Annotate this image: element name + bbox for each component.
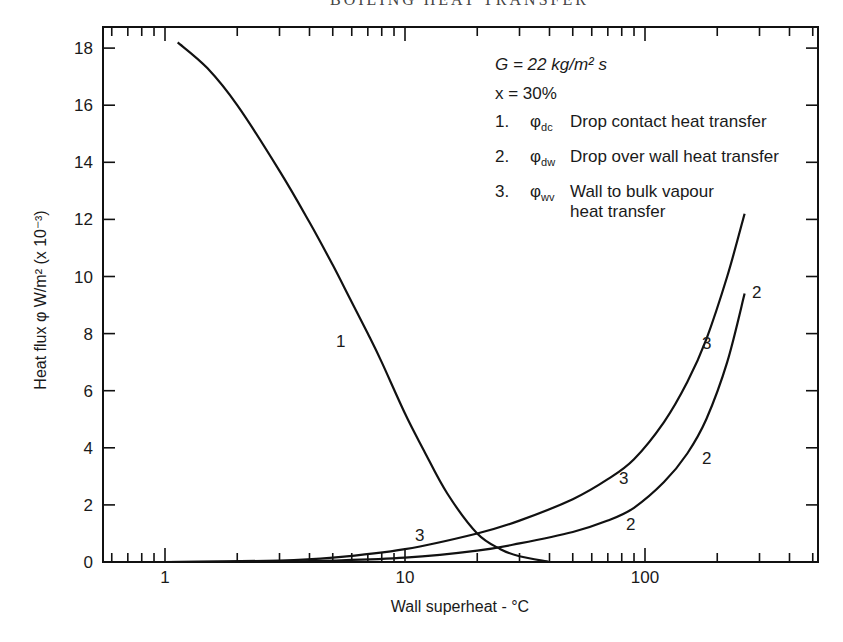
y-axis-title: Heat flux φ W/m² (x 10⁻³)	[32, 210, 49, 389]
legend-item-3: 3. φwv Wall to bulk vapour heat transfer	[495, 182, 714, 221]
phi-icon: φwv	[530, 182, 555, 203]
legend-item-2-label: Drop over wall heat transfer	[570, 147, 779, 166]
curve-2	[165, 294, 745, 562]
legend-quality: x = 30%	[495, 84, 557, 103]
y-tick-label: 0	[84, 553, 93, 572]
y-tick-label: 2	[84, 496, 93, 515]
y-axis-title-text: Heat flux φ W/m² (x 10⁻³)	[32, 210, 49, 389]
curve-number-label: 3	[702, 334, 711, 353]
legend-item-3-num: 3.	[495, 182, 509, 201]
legend-item-1-num: 1.	[495, 112, 509, 131]
y-tick-label: 4	[84, 439, 93, 458]
legend-line1: G = 22 kg/m² s	[495, 55, 607, 74]
legend-item-1-label: Drop contact heat transfer	[570, 112, 767, 131]
y-tick-label: 18	[74, 39, 93, 58]
legend-line2: x = 30%	[495, 84, 557, 103]
x-tick-label: 10	[396, 568, 415, 587]
curve-number-label: 3	[619, 469, 628, 488]
curve-number-label: 2	[626, 515, 635, 534]
y-tick-label: 6	[84, 382, 93, 401]
x-tick-labels: 110100	[160, 568, 659, 587]
legend-item-2-num: 2.	[495, 147, 509, 166]
legend-item-1: 1. φdc Drop contact heat transfer	[495, 112, 767, 133]
phi-icon: φdw	[530, 147, 555, 168]
legend-item-3-label-cont: heat transfer	[570, 202, 666, 221]
axis-ticks	[103, 27, 818, 562]
y-tick-label: 14	[74, 153, 93, 172]
curve-1	[178, 42, 550, 562]
curve-number-label: 2	[702, 449, 711, 468]
legend-item-3-label: Wall to bulk vapour	[570, 182, 714, 201]
curve-labels: 1222333	[336, 283, 761, 545]
x-tick-label: 1	[160, 568, 169, 587]
curve-3	[165, 214, 745, 562]
x-axis-title: Wall superheat - °C	[391, 598, 529, 615]
curve-number-label: 2	[752, 283, 761, 302]
legend-item-2: 2. φdw Drop over wall heat transfer	[495, 147, 779, 168]
phi-icon: φdc	[530, 112, 553, 133]
legend-mass-flux: G = 22 kg/m² s	[495, 55, 607, 74]
heat-flux-chart: 1222333 024681012141618 110100 Wall supe…	[0, 0, 843, 642]
x-tick-label: 100	[631, 568, 659, 587]
legend: G = 22 kg/m² s x = 30% 1. φdc Drop conta…	[495, 55, 779, 221]
curve-number-label: 3	[415, 526, 424, 545]
y-tick-labels: 024681012141618	[74, 39, 93, 572]
y-tick-label: 8	[84, 325, 93, 344]
y-tick-label: 16	[74, 96, 93, 115]
y-tick-label: 10	[74, 268, 93, 287]
curve-number-label: 1	[336, 332, 345, 351]
y-tick-label: 12	[74, 210, 93, 229]
plot-frame	[103, 27, 818, 562]
